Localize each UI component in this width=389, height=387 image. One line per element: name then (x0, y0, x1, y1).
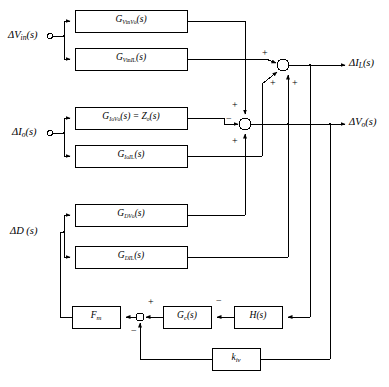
input-label-dio: ΔIo(s) (12, 127, 37, 139)
block-label-gc: Gc(s) (163, 311, 211, 322)
block-label-g-io-vo: GIoVo(s) = Zo(s) (75, 112, 187, 123)
sign-plus-il-diag: + (270, 78, 276, 88)
sign-plus-control: + (148, 297, 154, 307)
input-label-dvin: ΔVin(s) (8, 30, 38, 42)
sign-plus-il-bottom: + (292, 78, 298, 88)
wire-dio-fanout (48, 118, 71, 156)
block-label-g-d-il: GDIL(s) (75, 251, 187, 262)
sign-plus-vo-top: + (232, 100, 238, 110)
block-label-h: H(s) (234, 311, 282, 321)
output-label-dvo: ΔVo(s) (349, 117, 376, 129)
block-label-fm: Fm (72, 311, 120, 322)
block-label-g-io-il: GIoIL(s) (75, 150, 187, 161)
block-label-g-vin-il: GVinIL(s) (75, 53, 187, 64)
input-label-dd: ΔD (s) (10, 226, 37, 237)
wire-gdvo-to-sumvo (187, 134, 245, 215)
sign-minus-gc: − (216, 296, 222, 306)
wire-dvin-fanout (48, 21, 71, 59)
sign-minus-vo-left: − (226, 114, 232, 124)
summing-junction-control (136, 313, 144, 321)
block-label-g-vin-vo: GVinVo(s) (75, 15, 187, 26)
block-label-kiv: kiv (212, 353, 260, 364)
wire-dd-fanout (60, 215, 72, 317)
block-label-g-d-vo: GDVo(s) (75, 209, 187, 220)
summing-junction-il (277, 59, 289, 71)
wire-gvinil-to-sumil (187, 59, 276, 63)
summing-junction-vo (239, 118, 251, 130)
sign-plus-vo-bottom: + (232, 136, 238, 146)
sign-plus-il-left: + (262, 48, 268, 58)
block-diagram (0, 0, 389, 387)
wire-output-il (288, 63, 345, 317)
sign-minus-control: − (131, 326, 137, 336)
output-label-dil: ΔIL(s) (349, 58, 374, 70)
